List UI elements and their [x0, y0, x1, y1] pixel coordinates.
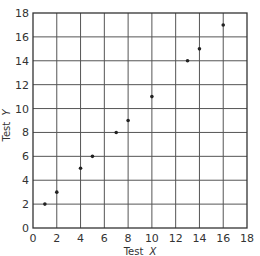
x-tick-label: 12 — [169, 232, 183, 245]
data-point — [43, 202, 47, 206]
data-point — [186, 59, 190, 63]
y-axis-label: Test Y — [1, 109, 12, 143]
x-tick-label: 18 — [240, 232, 254, 245]
y-tick-label: 18 — [15, 7, 29, 20]
x-tick-label: 8 — [125, 232, 132, 245]
x-axis-label-var: X — [149, 246, 158, 256]
grid — [33, 13, 247, 228]
x-tick-label: 2 — [53, 232, 60, 245]
data-point — [221, 23, 225, 27]
data-point — [126, 119, 130, 123]
data-point — [79, 166, 83, 170]
data-points — [43, 23, 225, 206]
scatter-chart: 024681012141618 024681012141618 Test X T… — [0, 0, 260, 256]
x-axis-label: Test X — [123, 246, 158, 256]
data-point — [150, 95, 154, 99]
y-axis-label-var: Y — [1, 109, 12, 116]
x-axis-label-text: Test — [123, 246, 144, 256]
plot-border — [33, 13, 247, 228]
data-point — [55, 190, 59, 194]
y-tick-label: 0 — [22, 222, 29, 235]
x-tick-label: 6 — [101, 232, 108, 245]
y-tick-label: 10 — [15, 103, 29, 116]
x-axis-ticks: 024681012141618 — [30, 232, 255, 245]
y-tick-label: 4 — [22, 174, 29, 187]
y-tick-label: 8 — [22, 126, 29, 139]
data-point — [114, 131, 118, 135]
y-tick-label: 16 — [15, 31, 29, 44]
data-point — [198, 47, 202, 51]
x-tick-label: 14 — [192, 232, 206, 245]
y-axis-ticks: 024681012141618 — [15, 7, 29, 235]
plot-frame — [33, 13, 247, 228]
x-tick-label: 4 — [77, 232, 84, 245]
x-tick-label: 10 — [145, 232, 159, 245]
y-axis-label-text: Test — [1, 122, 12, 143]
data-point — [91, 155, 95, 159]
y-tick-label: 12 — [15, 79, 29, 92]
y-tick-label: 14 — [15, 55, 29, 68]
x-tick-label: 16 — [216, 232, 230, 245]
x-tick-label: 0 — [30, 232, 37, 245]
y-tick-label: 2 — [22, 198, 29, 211]
y-tick-label: 6 — [22, 150, 29, 163]
